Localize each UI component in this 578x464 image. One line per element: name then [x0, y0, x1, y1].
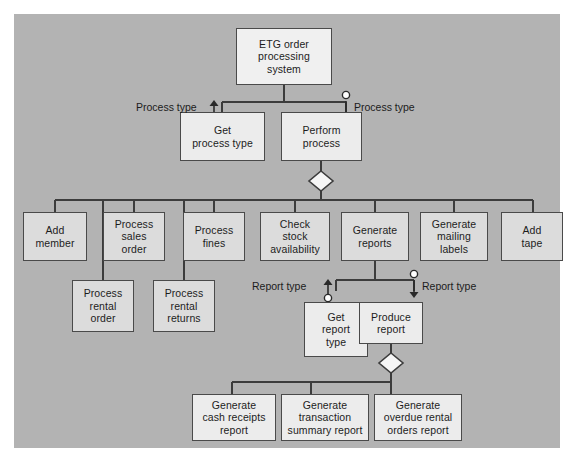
- node-generate-cash-receipts-report[interactable]: Generate cash receipts report: [192, 394, 276, 441]
- selection-diamond-produce-report: [379, 353, 403, 373]
- node-check-stock-availability[interactable]: Check stock availability: [260, 212, 330, 261]
- node-generate-overdue-rental-orders-report[interactable]: Generate overdue rental orders report: [374, 394, 462, 441]
- node-perform-process[interactable]: Perform process: [281, 112, 362, 161]
- node-produce-report[interactable]: Produce report: [359, 302, 423, 344]
- couple-label-report-type-up: Report type: [252, 280, 306, 292]
- couple-label-process-type-down: Process type: [354, 101, 415, 113]
- node-root[interactable]: ETG order processing system: [236, 28, 332, 85]
- node-process-sales-order[interactable]: Process sales order: [103, 212, 165, 261]
- data-couple-report-type-down: [410, 270, 419, 298]
- node-process-rental-returns[interactable]: Process rental returns: [153, 280, 215, 332]
- node-get-process-type[interactable]: Get process type: [180, 112, 265, 161]
- node-generate-mailing-labels[interactable]: Generate mailing labels: [420, 212, 488, 261]
- node-process-rental-order[interactable]: Process rental order: [72, 280, 134, 332]
- node-add-tape[interactable]: Add tape: [501, 212, 563, 261]
- couple-label-process-type-up: Process type: [136, 101, 197, 113]
- node-generate-reports[interactable]: Generate reports: [341, 212, 409, 261]
- data-couple-report-type-up: [324, 279, 333, 302]
- structure-chart: ETG order processing system Get process …: [14, 14, 560, 448]
- selection-diamond-perform-process: [309, 171, 333, 191]
- node-add-member[interactable]: Add member: [23, 212, 87, 261]
- node-process-fines[interactable]: Process fines: [183, 212, 245, 261]
- diagram-canvas: ETG order processing system Get process …: [14, 14, 560, 448]
- couple-label-report-type-down: Report type: [422, 280, 476, 292]
- node-generate-transaction-summary-report[interactable]: Generate transaction summary report: [281, 394, 369, 441]
